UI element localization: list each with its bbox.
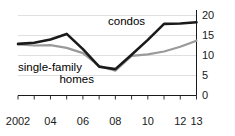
series-label-line2: homes [18, 74, 94, 86]
y-tick-label-20: 20 [202, 10, 214, 21]
x-tick-label-10: 10 [142, 116, 154, 127]
line-chart: 05101520 2002040608101213 condos single-… [0, 0, 235, 136]
y-tick-label-15: 15 [202, 30, 214, 41]
x-tick-label-08: 08 [109, 116, 121, 127]
series-label-condos: condos [108, 16, 145, 28]
y-tick-label-5: 5 [202, 70, 208, 81]
x-tick-label-06: 06 [77, 116, 89, 127]
x-tick-label-12: 12 [174, 116, 186, 127]
y-tick-label-10: 10 [202, 50, 214, 61]
x-axis-ticks [18, 96, 197, 100]
x-tick-label-13: 13 [190, 116, 202, 127]
x-tick-label-2002: 2002 [6, 116, 30, 127]
y-tick-label-0: 0 [202, 90, 208, 101]
series-label-line1: single-family [18, 61, 82, 73]
series-label-single-family-homes: single-familyhomes [18, 62, 94, 85]
x-tick-label-04: 04 [44, 116, 56, 127]
